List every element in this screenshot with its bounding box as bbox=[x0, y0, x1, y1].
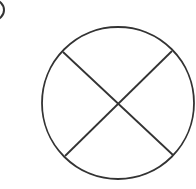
diagram-canvas bbox=[0, 0, 196, 189]
corner-circle-fragment bbox=[0, 0, 4, 20]
